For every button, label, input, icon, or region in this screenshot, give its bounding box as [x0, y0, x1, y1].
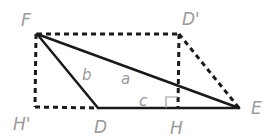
label-side-a: a [121, 70, 130, 88]
triangle-diagram: F D' H' D H E b a c [0, 0, 267, 140]
label-H: H [170, 118, 183, 138]
right-angle-marker [166, 97, 178, 108]
dashed-line-Dprime-H [178, 34, 179, 108]
label-side-b: b [82, 66, 92, 84]
label-H-prime: H' [13, 114, 30, 134]
label-D-prime: D' [182, 9, 200, 29]
label-F: F [21, 10, 31, 30]
label-E: E [251, 98, 262, 118]
label-side-c: c [139, 92, 148, 110]
dashed-line-Hprime-D [35, 107, 98, 108]
label-D: D [94, 117, 107, 137]
dashed-line-F-Hprime [35, 34, 36, 107]
